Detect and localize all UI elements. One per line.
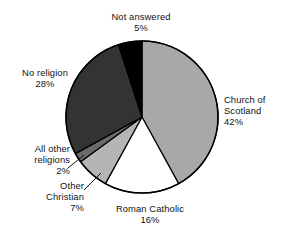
pie-label-no-religion-value: 28% [4, 78, 86, 89]
pie-label-roman-catholic-value: 16% [94, 214, 206, 225]
pie-label-all-other-religions: All other religions 2% [2, 143, 70, 177]
pie-label-roman-catholic: Roman Catholic 16% [94, 203, 206, 225]
pie-label-not-answered: Not answered 5% [86, 11, 196, 33]
pie-label-no-religion: No religion 28% [4, 67, 86, 89]
pie-label-all-other-religions-value: 2% [2, 165, 70, 176]
pie-label-other-christian-line1: Other [60, 180, 84, 191]
pie-label-roman-catholic-text: Roman Catholic [116, 203, 184, 214]
pie-label-all-other-religions-line1: All other [35, 143, 70, 154]
pie-label-other-christian: Other Christian 7% [6, 180, 84, 214]
pie-label-not-answered-value: 5% [86, 22, 196, 33]
pie-label-other-christian-line2: Christian [6, 191, 84, 202]
pie-label-church-of-scotland-line2: Scotland [224, 105, 284, 116]
pie-label-church-of-scotland-value: 42% [224, 116, 284, 127]
pie-label-not-answered-text: Not answered [111, 11, 170, 22]
pie-label-no-religion-text: No religion [22, 67, 68, 78]
pie-chart: Not answered 5% Church of Scotland 42% R… [0, 0, 286, 233]
pie-label-other-christian-value: 7% [6, 202, 84, 213]
pie-label-church-of-scotland: Church of Scotland 42% [224, 94, 284, 128]
pie-label-all-other-religions-line2: religions [2, 154, 70, 165]
pie-label-church-of-scotland-line1: Church of [224, 94, 266, 105]
